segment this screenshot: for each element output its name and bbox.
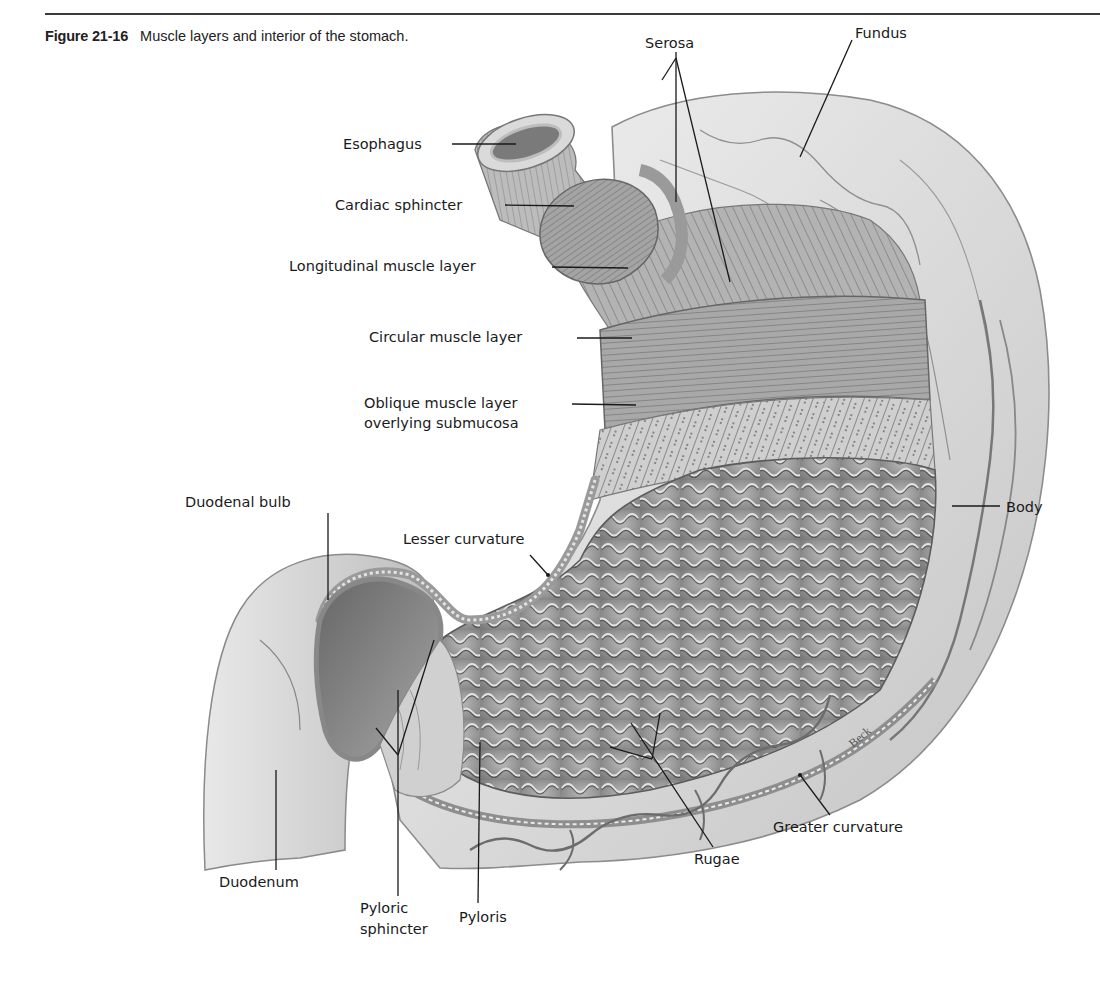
leader-serosa-left xyxy=(662,58,676,80)
label-lesser-curvature: Lesser curvature xyxy=(403,530,524,549)
label-pyloric-sphincter: Pyloric xyxy=(360,899,408,918)
label-rugae: Rugae xyxy=(694,850,740,869)
label-oblique-muscle-layer-line2: overlying submucosa xyxy=(364,414,519,433)
label-body: Body xyxy=(1006,498,1043,517)
arrow-lesser-curvature xyxy=(546,573,550,577)
label-greater-curvature: Greater curvature xyxy=(773,818,903,837)
label-longitudinal-muscle-layer: Longitudinal muscle layer xyxy=(289,257,476,276)
label-duodenum: Duodenum xyxy=(219,873,299,892)
label-pyloric-sphincter-line2: sphincter xyxy=(360,920,428,939)
stomach-illustration: Beck xyxy=(0,0,1100,984)
label-duodenal-bulb: Duodenal bulb xyxy=(185,493,291,512)
label-serosa: Serosa xyxy=(645,34,694,53)
label-esophagus: Esophagus xyxy=(343,135,422,154)
label-fundus: Fundus xyxy=(855,24,907,43)
leader-lesser-curvature xyxy=(530,555,548,575)
label-oblique-muscle-layer: Oblique muscle layer xyxy=(364,394,517,413)
arrow-greater-curvature xyxy=(798,773,802,777)
label-pyloris: Pyloris xyxy=(459,908,507,927)
label-cardiac-sphincter: Cardiac sphincter xyxy=(335,196,462,215)
label-circular-muscle-layer: Circular muscle layer xyxy=(369,328,522,347)
